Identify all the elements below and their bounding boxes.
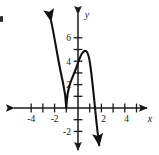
y-tick-label-6: 6	[66, 33, 71, 43]
figure-root: -4 -2 2 4 6 4 2 -2 x y	[0, 0, 159, 155]
x-tick-label-2: 2	[101, 114, 106, 124]
x-tick-label--4: -4	[27, 114, 35, 124]
axis-lines	[14, 14, 147, 150]
x-axis-label: x	[147, 113, 153, 124]
x-tick-label--2: -2	[51, 114, 59, 124]
y-tick-label--2: -2	[63, 127, 71, 137]
y-axis-label: y	[84, 9, 90, 20]
y-tick-label-4: 4	[66, 57, 71, 67]
x-tick-label-4: 4	[124, 114, 129, 124]
cubic-curve	[51, 21, 99, 145]
cartesian-graph: -4 -2 2 4 6 4 2 -2 x y	[0, 0, 159, 155]
cubic-curve-path	[51, 21, 99, 145]
